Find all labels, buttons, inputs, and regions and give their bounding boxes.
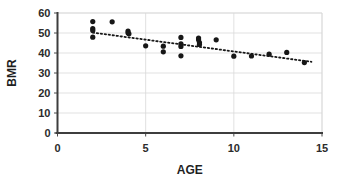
y-axis-title: BMR	[5, 59, 19, 87]
y-tick-labels-group: 0102030405060	[38, 7, 50, 139]
y-tick-label: 0	[44, 127, 50, 139]
x-tick-label: 15	[316, 142, 328, 154]
y-tick-label: 30	[38, 67, 50, 79]
data-point	[110, 19, 115, 24]
data-point	[231, 54, 236, 59]
data-point	[267, 52, 272, 57]
data-point	[178, 35, 183, 40]
data-point	[302, 60, 307, 65]
gridlines-group	[58, 13, 323, 133]
trendline-group	[93, 33, 312, 62]
trendline	[93, 33, 312, 62]
data-point	[178, 44, 183, 49]
data-point	[249, 53, 254, 58]
x-tick-label: 5	[143, 142, 149, 154]
y-tick-label: 20	[38, 87, 50, 99]
data-point	[90, 19, 95, 24]
data-points-group	[90, 19, 307, 65]
x-tick-labels-group: 051015	[54, 142, 328, 154]
data-point	[90, 35, 95, 40]
x-tick-label: 0	[54, 142, 60, 154]
y-tick-label: 60	[38, 7, 50, 19]
data-point	[197, 42, 202, 47]
data-point	[214, 37, 219, 42]
data-point	[126, 31, 131, 36]
x-tick-label: 10	[228, 142, 240, 154]
data-point	[161, 44, 166, 49]
data-point	[143, 43, 148, 48]
y-tick-label: 50	[38, 27, 50, 39]
data-point	[90, 28, 95, 33]
scatter-chart-figure: 0102030405060 051015 BMR AGE	[0, 0, 341, 185]
y-tick-label: 10	[38, 107, 50, 119]
chart-canvas: 0102030405060 051015 BMR AGE	[0, 0, 341, 185]
data-point	[284, 50, 289, 55]
data-point	[178, 53, 183, 58]
x-axis-title: AGE	[177, 163, 203, 177]
data-point	[161, 49, 166, 54]
y-tick-label: 40	[38, 47, 50, 59]
